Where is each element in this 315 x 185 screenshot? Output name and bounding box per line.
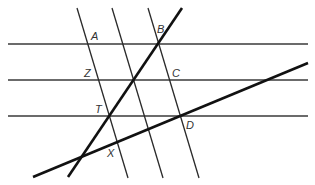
label-c: C [172, 67, 180, 79]
label-z: Z [83, 67, 92, 79]
geometry-diagram: A B Z C T D X [0, 0, 315, 185]
label-b: B [157, 23, 164, 35]
label-t: T [95, 103, 103, 115]
label-d: D [186, 119, 194, 131]
label-a: A [90, 30, 98, 42]
label-x: X [106, 147, 115, 159]
